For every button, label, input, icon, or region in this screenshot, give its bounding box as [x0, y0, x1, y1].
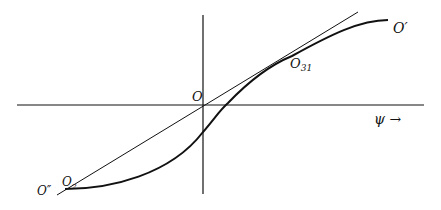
lower-tangent-main: O — [62, 175, 72, 189]
tangent-point-sub: 31 — [301, 63, 312, 73]
diagram-canvas: O O′ O31 O″ O2 ψ → — [0, 0, 441, 210]
tangent-point-label: O31 — [290, 56, 312, 73]
lower-tangent-label: O2 — [62, 175, 77, 191]
tangent-point-main: O — [290, 56, 301, 71]
origin-label: O — [192, 89, 203, 104]
x-axis-label: ψ → — [374, 111, 401, 127]
lower-end-label: O″ — [37, 184, 52, 198]
upper-end-label: O′ — [393, 20, 408, 36]
lower-tangent-sub: 2 — [71, 182, 77, 191]
straight-line — [57, 12, 358, 195]
